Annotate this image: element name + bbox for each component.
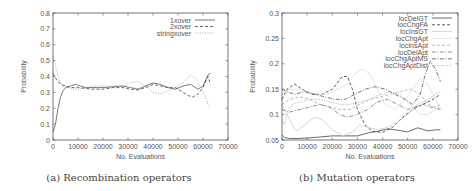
series-line-locDelApt (282, 99, 440, 117)
x-tick-label: 60000 (193, 143, 213, 150)
y-tick-label: 0 (46, 137, 50, 144)
y-tick-label: 0.7 (40, 25, 50, 32)
y-tick-label: 0.8 (40, 10, 50, 17)
series-line-stringxover (53, 56, 211, 107)
plot-area (53, 56, 211, 132)
y-tick-label: 0.1 (40, 121, 50, 128)
caption-recombination: (a) Recombination operators (0, 172, 238, 183)
x-tick-label: 10000 (297, 143, 317, 150)
series-line-1xover (53, 73, 211, 132)
chart-panel-recombination: 01000020000300004000050000600007000000.1… (0, 0, 238, 191)
y-tick-label: 0.15 (265, 86, 279, 93)
x-tick-label: 60000 (423, 143, 443, 150)
legend-label: locChgAptDist (384, 62, 428, 70)
legend-item-locChgAptDist: locChgAptDist (384, 62, 452, 70)
plot-frame (282, 13, 458, 140)
y-tick-label: 0.25 (265, 35, 279, 42)
y-axis: 0.050.10.150.20.250.3 (265, 10, 458, 144)
recombination-chart: 01000020000300004000050000600007000000.1… (0, 0, 238, 170)
x-tick-label: 40000 (143, 143, 163, 150)
x-tick-label: 30000 (348, 143, 368, 150)
y-tick-label: 0.3 (40, 89, 50, 96)
x-tick-label: 10000 (68, 143, 88, 150)
legend: locDelGTlocChgFAlocInsGTlocChgAptlocInsA… (384, 15, 452, 71)
x-tick-label: 20000 (93, 143, 113, 150)
y-tick-label: 0.3 (269, 10, 279, 17)
chart-panel-mutation: 0100002000030000400005000060000700000.05… (238, 0, 476, 191)
legend-label: stringxover (157, 30, 192, 38)
y-axis-title: Probability (249, 60, 257, 93)
y-tick-label: 0.2 (269, 60, 279, 67)
plot-area (282, 61, 440, 138)
y-tick-label: 0.05 (265, 137, 279, 144)
legend: 1xover2xoverstringxover (157, 17, 215, 38)
x-tick-label: 0 (51, 143, 55, 150)
y-tick-label: 0.2 (40, 105, 50, 112)
x-tick-label: 50000 (398, 143, 418, 150)
x-axis-title: No. Evaluations (116, 153, 166, 160)
mutation-chart: 0100002000030000400005000060000700000.05… (238, 0, 476, 170)
x-tick-label: 50000 (168, 143, 188, 150)
legend-item-stringxover: stringxover (157, 30, 215, 38)
plot-frame (53, 13, 228, 140)
series-line-locChgApt (282, 69, 440, 110)
y-tick-label: 0.6 (40, 41, 50, 48)
caption-mutation: (b) Mutation operators (238, 172, 476, 183)
x-tick-label: 30000 (118, 143, 138, 150)
x-tick-label: 0 (280, 143, 284, 150)
y-tick-label: 0.1 (269, 111, 279, 118)
x-tick-label: 20000 (323, 143, 343, 150)
x-tick-label: 70000 (218, 143, 238, 150)
x-axis-title: No. Evaluations (345, 153, 395, 160)
series-line-locDelGT (282, 128, 440, 139)
y-tick-label: 0.4 (40, 73, 50, 80)
x-tick-label: 40000 (373, 143, 393, 150)
y-axis: 00.10.20.30.40.50.60.70.8 (40, 10, 228, 144)
x-tick-label: 70000 (448, 143, 468, 150)
y-tick-label: 0.5 (40, 57, 50, 64)
y-axis-title: Probability (20, 60, 28, 93)
